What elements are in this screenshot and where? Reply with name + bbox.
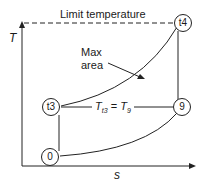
- annotation-max: Max: [81, 46, 102, 58]
- curve-0-9: [60, 113, 177, 156]
- eq-sign: =: [111, 100, 117, 112]
- eq-rhs: T: [120, 100, 127, 112]
- node-9: 9: [173, 98, 191, 116]
- node-0: 0: [41, 148, 59, 166]
- x-axis-arrow-icon: [189, 163, 196, 169]
- node-t4: t4: [174, 14, 192, 32]
- max-area-arrow: [108, 63, 140, 77]
- eq-lhs-sub: t3: [102, 107, 108, 114]
- eq-rhs-sub: 9: [127, 107, 131, 114]
- curve-t3-t4: [61, 27, 177, 106]
- x-axis-label: s: [114, 169, 120, 181]
- equation-label: Tt3 = T9: [92, 100, 134, 117]
- node-t3: t3: [42, 98, 60, 116]
- annotation-area: area: [81, 59, 103, 71]
- y-axis-arrow-icon: [19, 21, 25, 28]
- limit-temperature-label: Limit temperature: [60, 8, 146, 20]
- y-axis-label: T: [9, 32, 16, 44]
- eq-lhs: T: [95, 100, 102, 112]
